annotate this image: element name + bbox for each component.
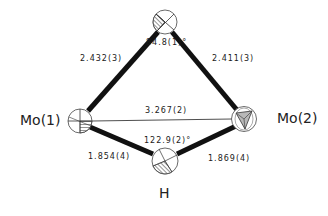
bond-length-mo1-bridge: 2.432(3) (80, 54, 122, 63)
atom-label-mo1: Mo(1) (20, 112, 60, 128)
angle-bridge: 84.8(1)° (146, 38, 187, 47)
bond-length-h-mo2: 1.869(4) (208, 154, 250, 163)
atom-label-mo2: Mo(2) (277, 110, 317, 126)
atom-bridge (153, 10, 177, 34)
atom-label-h: H (159, 185, 170, 201)
bond-mo1-mo2 (92, 119, 232, 121)
atom-mo1 (68, 109, 92, 133)
atom-h (152, 148, 178, 174)
bond-length-mo1-h: 1.854(4) (88, 152, 130, 161)
bond-length-mo1-mo2: 3.267(2) (145, 106, 187, 115)
angle-h: 122.9(2)° (144, 136, 191, 145)
atom-mo2 (232, 107, 257, 132)
bond-length-bridge-mo2: 2.411(3) (212, 54, 254, 63)
